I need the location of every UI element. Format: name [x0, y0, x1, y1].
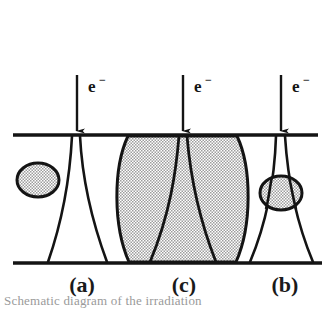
barrel-region-c — [117, 136, 248, 262]
free-stippled-ellipse — [17, 163, 59, 197]
clipped-caption-text: Schematic diagram of the irradiation — [4, 296, 202, 309]
panel-label-a: (a) — [69, 272, 95, 297]
beam-b-group: e − — [281, 73, 310, 131]
electron-superscript-b: − — [303, 73, 310, 87]
funnel-a — [48, 136, 107, 262]
electron-superscript-a: − — [99, 73, 106, 87]
funnel-a-right-edge — [80, 136, 107, 262]
figure-root: e − e − e − — [0, 0, 328, 310]
panel-label-b: (b) — [272, 272, 299, 297]
funnel-a-left-edge — [48, 136, 72, 262]
electron-label-c: e — [194, 77, 202, 96]
electron-superscript-c: − — [205, 73, 212, 87]
clipped-caption: Schematic diagram of the irradiation — [0, 296, 328, 310]
beam-a-group: e − — [77, 73, 106, 131]
electron-label-a: e — [88, 77, 96, 96]
beam-c-group: e − — [183, 73, 212, 131]
electron-beam-group: e − e − e − — [77, 73, 310, 131]
electron-label-b: e — [292, 77, 300, 96]
schematic-diagram: e − e − e − — [0, 0, 328, 310]
barrel-c-outline — [117, 136, 248, 262]
panel-label-c: (c) — [172, 272, 196, 297]
